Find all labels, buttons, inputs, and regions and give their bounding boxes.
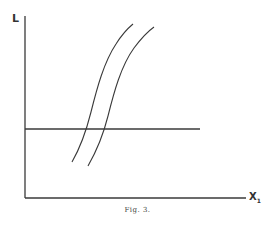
curve-2 [88,27,154,166]
x-axis-label: X1 [249,191,261,204]
figure-caption: Fig. 3. [0,206,275,214]
y-axis-label: L [12,12,19,25]
figure-diagram [0,0,275,227]
curve-1 [72,24,133,162]
x-axis-label-subscript: 1 [257,197,261,204]
x-axis-label-text: X [249,191,257,202]
